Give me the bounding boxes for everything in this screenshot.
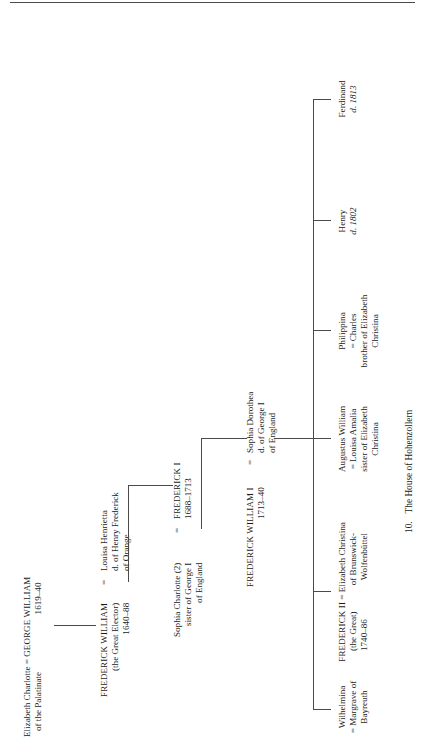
- george-william-line-2: of the Palatinate 1619–40: [33, 577, 44, 737]
- great-elector-equals: =: [99, 580, 110, 585]
- figure-caption-number: 10.: [404, 521, 414, 533]
- node-philippina: Philippina = Charles brother of Elizabet…: [337, 267, 381, 395]
- louisa-henrietta-detail-1: d. of Henry Frederick: [110, 492, 121, 571]
- sophia-charlotte-name: Sophia Charlotte (2): [172, 563, 183, 637]
- augustus-william-detail-3: Christina: [370, 380, 381, 498]
- george-william-line-1: Elizabeth Charlotte = GEORGE WILLIAM: [22, 577, 33, 737]
- figure-caption-title: The House of Hohenzollern: [404, 410, 414, 514]
- frederick-ii-line-3: 1740–86 Wolfenbüttel: [359, 521, 370, 663]
- node-ferdinand: Ferdinand d. 1813: [337, 60, 359, 138]
- marriage-line-gen3: [201, 439, 202, 529]
- tick-frederick-ii: [313, 591, 331, 592]
- wilhelmina-detail-2: Bayreuth: [359, 665, 370, 749]
- tick-ferdinand: [313, 99, 331, 100]
- sophia-dorothea-detail-1: d. of George I: [256, 392, 267, 453]
- descent-line-gen1-gen2: [54, 625, 96, 626]
- great-elector-dates: 1640–88: [121, 603, 132, 697]
- node-frederick-ii: FREDERICK II = Elizabeth Christina (the …: [337, 521, 370, 663]
- descent-line-gen4-gen5: [274, 438, 313, 439]
- frederick-ii-line-1: FREDERICK II = Elizabeth Christina: [337, 521, 348, 663]
- ferdinand-name: Ferdinand: [337, 60, 348, 138]
- philippina-detail-1: = Charles: [348, 267, 359, 395]
- augustus-william-detail-1: = Louisa Amalia: [348, 380, 359, 498]
- tick-augustus-william: [313, 438, 331, 439]
- descent-line-gen2-gen3: [128, 485, 173, 486]
- henry-detail-1: d. 1802: [348, 187, 359, 255]
- sibling-bus-gen5: [313, 100, 314, 710]
- node-wilhelmina: Wilhelmina = Margrave of Bayreuth: [337, 665, 370, 749]
- frederick-ii-line-2: (the Great) of Brunswick-: [348, 521, 359, 663]
- sophia-charlotte-detail-2: of England: [194, 563, 205, 637]
- sophia-charlotte-detail-1: sister of George I: [183, 563, 194, 637]
- philippina-detail-3: Christina: [370, 267, 381, 395]
- node-sophia-dorothea: Sophia Dorothea d. of George I of Englan…: [245, 392, 278, 453]
- node-george-william: Elizabeth Charlotte = GEORGE WILLIAM of …: [22, 577, 44, 737]
- descent-line-gen3-gen4: [201, 438, 247, 439]
- node-frederick-william-i: FREDERICK WILLIAM I 1713–40: [245, 487, 267, 587]
- louisa-henrietta-name: Louisa Henrietta: [99, 492, 110, 571]
- great-elector-name: FREDERICK WILLIAM: [99, 603, 110, 697]
- node-henry: Henry d. 1802: [337, 187, 359, 255]
- philippina-name: Philippina: [337, 267, 348, 395]
- node-sophia-charlotte: Sophia Charlotte (2) sister of George I …: [172, 563, 205, 637]
- frederick-i-equals: =: [172, 528, 183, 533]
- frederick-i-dates: 1688–1713: [183, 462, 194, 519]
- marriage-line-gen2: [128, 486, 129, 582]
- frederick-william-i-dates: 1713–40: [256, 487, 267, 587]
- augustus-william-name: Augustus William: [337, 380, 348, 498]
- node-frederick-william-great-elector: FREDERICK WILLIAM (the Great Elector) 16…: [99, 603, 132, 697]
- frederick-william-i-equals: =: [245, 460, 256, 465]
- wilhelmina-name: Wilhelmina: [337, 665, 348, 749]
- sophia-dorothea-detail-2: of England: [267, 392, 278, 453]
- figure-caption: 10.The House of Hohenzollern: [404, 410, 414, 533]
- tick-wilhelmina: [313, 709, 331, 710]
- frederick-william-i-name: FREDERICK WILLIAM I: [245, 487, 256, 587]
- tick-philippina: [313, 330, 331, 331]
- node-augustus-william: Augustus William = Louisa Amalia sister …: [337, 380, 381, 498]
- louisa-henrietta-detail-2: of Orange: [121, 492, 132, 571]
- augustus-william-detail-2: sister of Elizabeth: [359, 380, 370, 498]
- sophia-dorothea-name: Sophia Dorothea: [245, 392, 256, 453]
- frederick-i-name: FREDERICK I: [172, 462, 183, 519]
- node-frederick-i: FREDERICK I 1688–1713: [172, 462, 194, 519]
- henry-name: Henry: [337, 187, 348, 255]
- tick-henry: [313, 220, 331, 221]
- wilhelmina-detail-1: = Margrave of: [348, 665, 359, 749]
- philippina-detail-2: brother of Elizabeth: [359, 267, 370, 395]
- ferdinand-detail-1: d. 1813: [348, 60, 359, 138]
- genealogy-chart: Elizabeth Charlotte = GEORGE WILLIAM of …: [0, 0, 423, 755]
- great-elector-detail: (the Great Elector): [110, 603, 121, 697]
